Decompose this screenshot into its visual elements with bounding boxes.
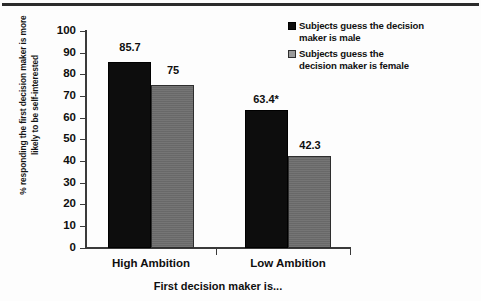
y-axis-title-line-1: % responding the first decision maker is… — [18, 0, 30, 220]
bar-high-ambition-male[interactable] — [108, 62, 151, 248]
legend-label-female-line-2: decision maker is female — [299, 60, 409, 72]
legend-label-male-line-2: maker is male — [299, 32, 424, 44]
y-tick-20 — [80, 204, 85, 205]
legend-label-female-line-1: Subjects guess the — [299, 48, 409, 60]
y-tick-70 — [80, 96, 85, 97]
legend-label-male-line-1: Subjects guess the decision — [299, 20, 424, 32]
bar-label-low-ambition-female: 42.3 — [286, 140, 334, 151]
y-tick-label-80: 80 — [50, 68, 76, 80]
legend-swatch-male-icon — [288, 22, 296, 30]
legend-label-male: Subjects guess the decision maker is mal… — [299, 20, 424, 43]
top-rule-divider — [2, 3, 479, 6]
legend-label-female: Subjects guess the decision maker is fem… — [299, 48, 409, 71]
x-tick-axis-end — [350, 249, 351, 255]
bar-label-low-ambition-male: 63.4* — [241, 94, 291, 105]
legend-swatch-female-icon — [288, 50, 296, 58]
y-tick-label-100: 100 — [50, 25, 76, 37]
y-tick-10 — [80, 226, 85, 227]
bar-label-high-ambition-male: 85.7 — [106, 42, 154, 53]
y-tick-60 — [80, 118, 85, 119]
y-tick-label-10: 10 — [50, 220, 76, 232]
y-tick-label-40: 40 — [50, 155, 76, 167]
x-category-label-low-ambition: Low Ambition — [228, 257, 348, 269]
y-tick-80 — [80, 74, 85, 75]
y-tick-label-20: 20 — [50, 198, 76, 210]
y-tick-label-50: 50 — [50, 133, 76, 145]
y-tick-label-0: 0 — [50, 242, 76, 254]
y-tick-50 — [80, 139, 85, 140]
chart-legend: Subjects guess the decision maker is mal… — [288, 20, 480, 76]
legend-item-male[interactable]: Subjects guess the decision maker is mal… — [288, 20, 480, 43]
y-tick-40 — [80, 161, 85, 162]
bar-high-ambition-female[interactable] — [151, 85, 194, 248]
y-axis-title: % responding the first decision maker is… — [18, 0, 48, 220]
bar-low-ambition-male[interactable] — [245, 110, 288, 248]
bar-low-ambition-female[interactable] — [288, 156, 331, 248]
y-tick-0 — [80, 248, 85, 249]
y-tick-90 — [80, 53, 85, 54]
y-tick-label-60: 60 — [50, 112, 76, 124]
y-tick-label-90: 90 — [50, 47, 76, 59]
y-tick-label-70: 70 — [50, 90, 76, 102]
chart-figure: % responding the first decision maker is… — [0, 0, 481, 301]
y-tick-label-30: 30 — [50, 177, 76, 189]
y-tick-30 — [80, 183, 85, 184]
x-tick-group-separator — [216, 249, 217, 255]
y-axis-line — [85, 30, 87, 249]
x-axis-title: First decision maker is... — [85, 280, 351, 292]
x-category-label-high-ambition: High Ambition — [91, 257, 211, 269]
y-tick-100 — [80, 31, 85, 32]
y-axis-title-line-2: likely to be self-interested — [30, 0, 42, 220]
bar-label-high-ambition-female: 75 — [149, 65, 197, 76]
legend-item-female[interactable]: Subjects guess the decision maker is fem… — [288, 48, 480, 71]
